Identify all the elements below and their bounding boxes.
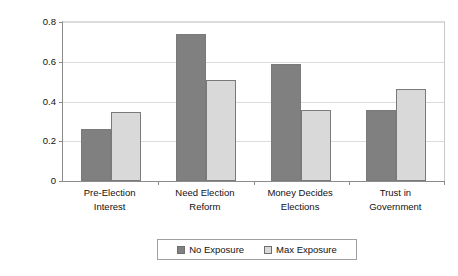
- legend-swatch-icon: [264, 246, 272, 254]
- plot-area: [62, 21, 445, 182]
- gridline: [63, 102, 444, 103]
- x-axis-category-label: Money DecidesElections: [253, 186, 348, 214]
- bar: [366, 110, 396, 181]
- category-label-line: Need Election: [157, 186, 252, 200]
- bar: [176, 34, 206, 181]
- bar: [301, 110, 331, 181]
- chart-legend: No ExposureMax Exposure: [157, 239, 357, 260]
- bar: [111, 112, 141, 181]
- y-axis-tickmark: [59, 102, 63, 103]
- y-axis-tick-label: 0.6: [28, 55, 56, 66]
- bar-chart: Average Probability 00.20.40.60.8 Pre-El…: [0, 0, 458, 276]
- category-label-line: Money Decides: [253, 186, 348, 200]
- x-axis-tickmark: [349, 181, 350, 185]
- x-axis-category-label: Need ElectionReform: [157, 186, 252, 214]
- bar: [271, 64, 301, 181]
- category-label-line: Interest: [62, 200, 157, 214]
- x-axis-tickmark: [254, 181, 255, 185]
- legend-label: No Exposure: [189, 244, 244, 255]
- y-axis-tickmark: [59, 62, 63, 63]
- gridline: [63, 22, 444, 23]
- y-axis-tickmark: [59, 141, 63, 142]
- y-axis-tick-label: 0.2: [28, 135, 56, 146]
- category-label-line: Government: [348, 200, 443, 214]
- y-axis-tick-label: 0: [28, 175, 56, 186]
- y-axis-tick-label: 0.8: [28, 16, 56, 27]
- x-axis-tickmark: [444, 181, 445, 185]
- category-label-line: Elections: [253, 200, 348, 214]
- x-axis-tickmark: [158, 181, 159, 185]
- legend-item[interactable]: No Exposure: [177, 244, 244, 255]
- bar: [396, 89, 426, 181]
- category-label-line: Trust in: [348, 186, 443, 200]
- legend-swatch-icon: [177, 246, 185, 254]
- bar: [206, 80, 236, 181]
- x-axis-category-label: Pre-ElectionInterest: [62, 186, 157, 214]
- y-axis-tickmark: [59, 181, 63, 182]
- y-axis-tick-labels: 00.20.40.60.8: [24, 0, 56, 276]
- category-label-line: Pre-Election: [62, 186, 157, 200]
- x-axis-category-labels: Pre-ElectionInterestNeed ElectionReformM…: [62, 186, 443, 230]
- category-label-line: Reform: [157, 200, 252, 214]
- legend-label: Max Exposure: [276, 244, 337, 255]
- x-axis-category-label: Trust inGovernment: [348, 186, 443, 214]
- legend-item[interactable]: Max Exposure: [264, 244, 337, 255]
- y-axis-tickmark: [59, 22, 63, 23]
- bar: [81, 129, 111, 181]
- gridline: [63, 62, 444, 63]
- y-axis-tick-label: 0.4: [28, 95, 56, 106]
